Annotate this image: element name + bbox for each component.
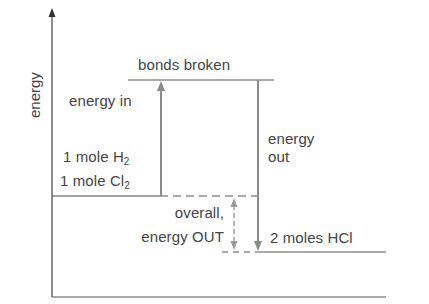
- y-axis: [49, 8, 56, 297]
- energy-in-arrow-icon: [157, 81, 165, 196]
- reactant-cl2-subscript: 2: [124, 180, 130, 191]
- reactant-h2-label: 1 mole H2: [63, 148, 130, 165]
- energy-out-arrow-icon: [254, 80, 262, 251]
- overall-label-line1: overall,: [152, 204, 224, 221]
- energy-out-label-line1: energy: [268, 130, 314, 147]
- overall-energy-arrow-icon: [231, 198, 238, 250]
- reactant-cl2-label: 1 mole Cl2: [60, 172, 130, 189]
- overall-label-line2: energy OUT: [112, 228, 224, 245]
- y-axis-arrowhead-icon: [49, 8, 56, 17]
- energy-in-label: energy in: [69, 92, 132, 109]
- reactant-cl2-text: 1 mole Cl: [60, 172, 124, 189]
- products-label: 2 moles HCl: [270, 229, 353, 246]
- bonds-broken-label: bonds broken: [138, 56, 230, 73]
- y-axis-label: energy: [26, 72, 43, 118]
- energy-out-label-line2: out: [268, 148, 289, 165]
- reactant-h2-text: 1 mole H: [63, 148, 124, 165]
- reactant-h2-subscript: 2: [124, 156, 130, 167]
